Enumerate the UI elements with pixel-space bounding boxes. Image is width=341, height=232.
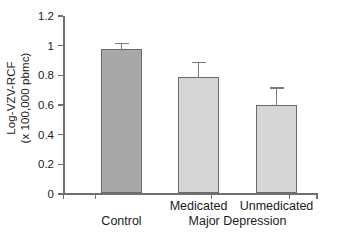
- y-axis-tick-label: 0: [48, 188, 54, 200]
- error-bar-cap: [192, 62, 206, 63]
- x-axis-group-label: Major Depression: [189, 214, 287, 228]
- y-axis-tick: 0.4: [58, 134, 63, 135]
- bar-chart-figure: Log-VZV-RCF (x 100,000 pbmc) 00.20.40.60…: [0, 0, 341, 232]
- error-bar-stem: [198, 62, 199, 78]
- x-axis-tick: [63, 193, 64, 199]
- x-axis-tick: [95, 193, 96, 199]
- y-axis-tick: 1.2: [58, 15, 63, 16]
- x-axis-label-control: Control: [101, 214, 141, 228]
- bar-medicated: [178, 77, 219, 193]
- y-axis-line: [63, 16, 65, 194]
- x-axis-end-tick: [316, 193, 318, 199]
- error-bar-cap: [270, 87, 284, 88]
- plot-area: 00.20.40.60.811.2: [63, 16, 315, 194]
- y-axis-label-line1: Log-VZV-RCF: [5, 61, 17, 134]
- bar-unmedicated: [256, 105, 297, 193]
- x-axis-label-medicated: Medicated: [170, 199, 228, 213]
- y-axis-tick: 0.2: [58, 164, 63, 165]
- y-axis-label-line2: (x 100,000 pbmc): [18, 52, 32, 143]
- x-axis-line: [60, 193, 318, 195]
- y-axis-tick-label: 0.4: [38, 129, 54, 141]
- bar-control: [101, 49, 142, 193]
- y-axis-tick: 1: [58, 45, 63, 46]
- y-axis-tick-label: 1.2: [38, 10, 54, 22]
- y-axis-tick-label: 0.8: [38, 69, 54, 81]
- y-axis-tick: 0.8: [58, 75, 63, 76]
- x-axis-label-unmedicated: Unmedicated: [240, 199, 314, 213]
- y-axis-tick-label: 0.2: [38, 158, 54, 170]
- y-axis-tick: 0.6: [58, 104, 63, 105]
- error-bar-stem: [276, 87, 277, 106]
- error-bar-cap: [115, 43, 129, 44]
- y-axis-tick-label: 0.6: [38, 99, 54, 111]
- y-axis-tick-label: 1: [48, 40, 54, 52]
- y-axis-label: Log-VZV-RCF (x 100,000 pbmc): [0, 0, 36, 196]
- y-axis-label-text: Log-VZV-RCF (x 100,000 pbmc): [5, 52, 32, 143]
